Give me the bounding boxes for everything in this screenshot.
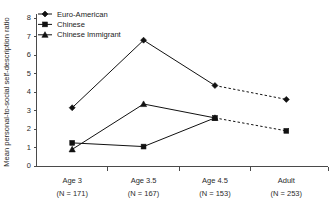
series-2 — [70, 116, 289, 149]
y-tick-label: 7 — [27, 32, 31, 41]
data-point-diamond — [212, 83, 218, 89]
y-tick-label: 6 — [27, 50, 31, 59]
legend-item: Euro-American — [38, 10, 108, 19]
y-tick-label: 1 — [27, 143, 31, 152]
x-tick-label: Age 3 — [62, 176, 82, 185]
series-segment-solid — [72, 104, 143, 149]
legend-label: Euro-American — [57, 10, 108, 19]
x-tick-sublabel: (N = 253) — [271, 189, 303, 198]
y-tick-label: 2 — [27, 124, 31, 133]
data-point-square — [70, 140, 75, 145]
y-axis-label-text: Mean personal-to-social self-description… — [2, 17, 11, 166]
legend-item: Chinese Immigrant — [38, 30, 122, 39]
series-segment-solid — [72, 40, 143, 108]
y-axis: 012345678 — [27, 13, 37, 170]
x-tick-sublabel: (N = 167) — [128, 189, 160, 198]
x-tick-label: Age 3.5 — [131, 176, 157, 185]
chart-figure: 012345678 Age 3(N = 171)Age 3.5(N = 167)… — [0, 0, 333, 206]
line-chart: 012345678 Age 3(N = 171)Age 3.5(N = 167)… — [0, 0, 333, 206]
data-series-group — [69, 37, 289, 152]
y-axis-title: Mean personal-to-social self-description… — [2, 17, 11, 166]
y-tick-label: 0 — [27, 161, 31, 170]
series-segment-solid — [144, 104, 215, 118]
series-segment-solid — [144, 118, 215, 147]
series-segment-dashed — [215, 86, 286, 100]
legend-item: Chinese — [38, 20, 85, 29]
chart-legend: Euro-AmericanChineseChinese Immigrant — [38, 10, 122, 40]
data-point-square — [141, 144, 146, 149]
y-tick-label: 5 — [27, 69, 31, 78]
data-point-diamond — [283, 96, 289, 102]
x-axis: Age 3(N = 171)Age 3.5(N = 167)Age 4.5(N … — [37, 167, 329, 198]
legend-marker-diamond — [42, 11, 48, 17]
x-tick-sublabel: (N = 171) — [56, 189, 88, 198]
series-segment-solid — [72, 143, 143, 147]
legend-label: Chinese — [57, 20, 85, 29]
x-tick-sublabel: (N = 153) — [199, 189, 231, 198]
data-point-square — [284, 128, 289, 133]
legend-label: Chinese Immigrant — [57, 30, 122, 39]
x-tick-label: Adult — [278, 176, 296, 185]
data-point-triangle — [140, 101, 146, 107]
x-tick-label: Age 4.5 — [202, 176, 228, 185]
legend-marker-square — [43, 22, 48, 27]
series-segment-dashed — [215, 118, 286, 131]
series-1 — [69, 37, 289, 111]
y-tick-label: 4 — [27, 87, 31, 96]
data-point-triangle — [69, 146, 75, 152]
y-tick-label: 3 — [27, 106, 31, 115]
y-tick-label: 8 — [27, 13, 31, 22]
series-segment-solid — [144, 40, 215, 85]
